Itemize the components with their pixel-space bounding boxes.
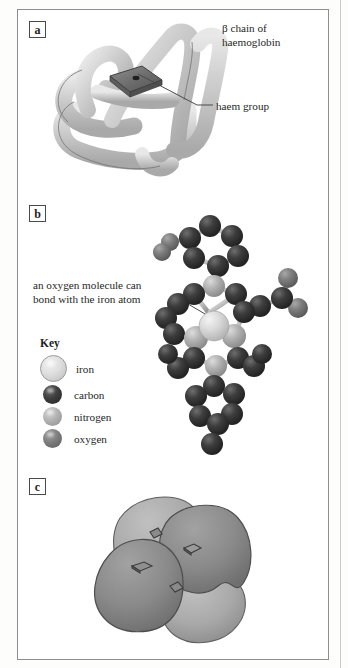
sphere-nitrogen-icon — [43, 407, 62, 426]
oxygen-annotation-line1: an oxygen molecule can — [33, 279, 141, 291]
haemoglobin-quaternary-structure — [62, 482, 302, 654]
beta-chain-caption: β chain of haemoglobin — [222, 22, 332, 49]
panel-label-c: c — [29, 478, 46, 495]
legend-item-iron: iron — [40, 355, 170, 382]
legend-label-oxygen: oxygen — [74, 433, 107, 445]
haem-group-callout: haem group — [216, 100, 269, 114]
beta-chain-caption-line2: haemoglobin — [222, 36, 280, 48]
sphere-carbon-icon — [43, 385, 62, 404]
sphere-oxygen-icon — [43, 429, 62, 448]
legend-key: Key iron carbon nitrogen oxygen — [40, 337, 170, 451]
sphere-iron-icon — [40, 355, 67, 382]
legend-item-nitrogen: nitrogen — [40, 407, 170, 426]
page-margin-rule — [340, 0, 341, 668]
figure-page: a — [0, 0, 348, 668]
panel-label-b: b — [29, 205, 46, 222]
beta-chain-caption-line1: β chain of — [222, 22, 267, 34]
oxygen-annotation-line2: bond with the iron atom — [33, 293, 141, 305]
legend-label-carbon: carbon — [74, 389, 104, 401]
legend-label-iron: iron — [76, 363, 94, 375]
legend-label-nitrogen: nitrogen — [74, 411, 111, 423]
legend-title: Key — [40, 337, 170, 349]
legend-item-carbon: carbon — [40, 385, 170, 404]
haem-ball-and-stick-model — [148, 208, 323, 470]
beta-chain-ribbon-diagram — [38, 14, 228, 184]
legend-item-oxygen: oxygen — [40, 429, 170, 448]
